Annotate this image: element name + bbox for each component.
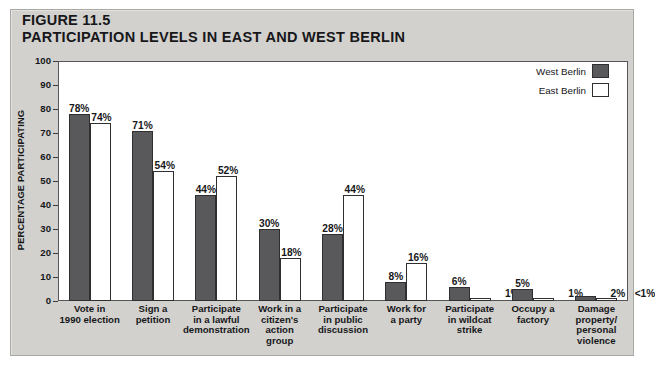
x-axis-label-line: discussion — [307, 325, 378, 336]
bar-west-berlin: 8% — [385, 282, 406, 301]
x-axis-label-line: a party — [371, 315, 442, 326]
bar-east-berlin: 1% — [533, 298, 554, 301]
bar-west-berlin: 30% — [259, 229, 280, 301]
y-tick-label: 0 — [46, 295, 51, 307]
x-axis-label: Damageproperty/personalviolence — [561, 304, 632, 346]
x-axis-label-line: Work in a — [244, 304, 315, 315]
bar-value-label: 16% — [408, 252, 428, 263]
x-axis-label-line: petition — [117, 315, 188, 326]
bar-value-label: 74% — [91, 112, 111, 123]
bar-value-label: 44% — [196, 184, 216, 195]
y-tick-10: 10 — [40, 271, 58, 283]
bar-value-label: 54% — [155, 160, 175, 171]
y-tick-50: 50 — [40, 175, 58, 187]
x-axis-label-line: Participate — [307, 304, 378, 315]
y-tick-30: 30 — [40, 223, 58, 235]
y-tick-label: 20 — [40, 247, 51, 259]
y-tick-label: 80 — [40, 103, 51, 115]
bar-east-berlin: 18% — [280, 258, 301, 301]
x-axis-label-line: 1990 election — [54, 315, 125, 326]
figure-title: PARTICIPATION LEVELS IN EAST AND WEST BE… — [22, 29, 582, 46]
legend-label-east-berlin: East Berlin — [539, 85, 586, 96]
y-tick-label: 10 — [40, 271, 51, 283]
x-axis-labels: Vote in1990 electionSign apetitionPartic… — [58, 304, 628, 356]
x-axis-label-line: demonstration — [181, 325, 252, 336]
x-axis-label-line: strike — [434, 325, 505, 336]
legend-item-west-berlin: West Berlin — [497, 64, 609, 78]
y-tick-60: 60 — [40, 151, 58, 163]
y-tick-100: 100 — [35, 55, 58, 67]
y-tick-label: 40 — [40, 199, 51, 211]
y-tick-40: 40 — [40, 199, 58, 211]
y-tick-label: 50 — [40, 175, 51, 187]
bar-east-berlin: 74% — [90, 123, 111, 301]
bar-west-berlin: 71% — [132, 131, 153, 301]
x-axis-label: Participatein wildcatstrike — [434, 304, 505, 336]
x-axis-label-line: group — [244, 336, 315, 347]
x-axis-label-line: violence — [561, 336, 632, 347]
bar-value-label: 44% — [345, 184, 365, 195]
bar-group: 30%18% — [259, 61, 301, 301]
x-axis-label: Occupy afactory — [497, 304, 568, 325]
y-axis-ticks: 1009080706050403020100 — [0, 61, 58, 301]
legend-item-east-berlin: East Berlin — [497, 83, 609, 97]
bar-group: 71%54% — [132, 61, 174, 301]
figure-number: FIGURE 11.5 — [22, 13, 582, 28]
bar-west-berlin: 2% — [575, 296, 596, 301]
bar-west-berlin: 6% — [449, 287, 470, 301]
y-tick-70: 70 — [40, 127, 58, 139]
bar-group: 44%52% — [195, 61, 237, 301]
x-axis-label-line: Work for — [371, 304, 442, 315]
bar-east-berlin: <1% — [596, 298, 617, 301]
x-axis-label: Vote in1990 election — [54, 304, 125, 325]
y-tick-label: 90 — [40, 79, 51, 91]
y-tick-90: 90 — [40, 79, 58, 91]
bar-west-berlin: 5% — [512, 289, 533, 301]
x-axis-label-line: Participate — [434, 304, 505, 315]
bar-value-label: 78% — [69, 103, 89, 114]
y-tick-20: 20 — [40, 247, 58, 259]
bar-group: 8%16% — [385, 61, 427, 301]
bar-value-label: 28% — [322, 223, 342, 234]
bar-value-label: <1% — [635, 288, 655, 299]
x-axis-label-line: Occupy a — [497, 304, 568, 315]
x-axis-label: Participatein publicdiscussion — [307, 304, 378, 336]
bar-value-label: 71% — [132, 120, 152, 131]
x-axis-label: Work fora party — [371, 304, 442, 325]
bar-west-berlin: 78% — [69, 114, 90, 301]
bar-east-berlin: 54% — [153, 171, 174, 301]
x-axis-label-line: Sign a — [117, 304, 188, 315]
x-axis-label-line: Damage — [561, 304, 632, 315]
bar-value-label: 30% — [259, 218, 279, 229]
bar-group: 28%44% — [322, 61, 364, 301]
y-tick-label: 60 — [40, 151, 51, 163]
bar-value-label: 8% — [388, 271, 403, 282]
x-axis-label: Work in acitizen'sactiongroup — [244, 304, 315, 346]
bar-value-label: 18% — [281, 247, 301, 258]
legend-swatch-west-berlin — [592, 64, 609, 78]
x-axis-label-line: Vote in — [54, 304, 125, 315]
x-axis-label: Sign apetition — [117, 304, 188, 325]
x-axis-label: Participatein a lawfuldemonstration — [181, 304, 252, 336]
bar-value-label: 5% — [515, 278, 530, 289]
bar-group: 6%1% — [449, 61, 491, 301]
y-tick-label: 30 — [40, 223, 51, 235]
bar-west-berlin: 28% — [322, 234, 343, 301]
y-tick-80: 80 — [40, 103, 58, 115]
bar-east-berlin: 44% — [343, 195, 364, 301]
bar-value-label: 6% — [452, 276, 467, 287]
figure-header: FIGURE 11.5 PARTICIPATION LEVELS IN EAST… — [22, 13, 582, 46]
bar-value-label: 52% — [218, 165, 238, 176]
chart-legend: West Berlin East Berlin — [497, 64, 609, 102]
bar-group: 78%74% — [69, 61, 111, 301]
bar-west-berlin: 44% — [195, 195, 216, 301]
y-tick-label: 100 — [35, 55, 51, 67]
bar-east-berlin: 52% — [216, 176, 237, 301]
x-axis-label-line: Participate — [181, 304, 252, 315]
bar-east-berlin: 16% — [406, 263, 427, 301]
bar-east-berlin: 1% — [470, 298, 491, 301]
legend-label-west-berlin: West Berlin — [536, 66, 586, 77]
legend-swatch-east-berlin — [592, 83, 609, 97]
x-axis-label-line: factory — [497, 315, 568, 326]
